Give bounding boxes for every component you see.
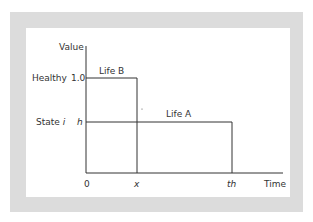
x-tick-0: 0 <box>84 179 90 189</box>
y-tick-1: 1.0 <box>71 73 86 83</box>
life-b-line <box>86 78 137 173</box>
life-a-label: Life A <box>166 109 192 119</box>
life-b-label: Life B <box>99 66 124 76</box>
state-label: State i <box>36 117 66 127</box>
life-a-line <box>86 122 232 173</box>
x-tick-th: th <box>227 179 237 189</box>
x-axis-label: Time <box>263 179 286 189</box>
healthy-label: Healthy <box>32 73 68 83</box>
y-axis-label: Value <box>59 42 84 52</box>
y-tick-h: h <box>77 117 83 127</box>
x-tick-x: x <box>133 179 140 189</box>
stray-dot <box>141 108 142 109</box>
diagram: Value Healthy 1.0 State i h Life B Life … <box>0 0 313 222</box>
